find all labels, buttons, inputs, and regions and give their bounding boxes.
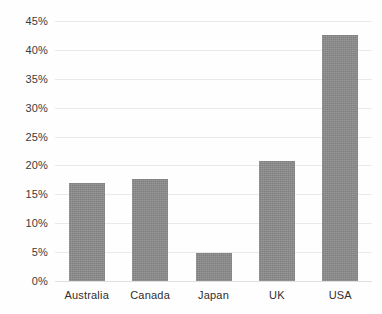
plot-area [55,21,372,281]
y-axis-tick-label: 20% [0,159,48,171]
bar [196,253,232,281]
x-axis-tick-label: UK [269,289,285,301]
y-axis-tick-label: 10% [0,217,48,229]
x-axis-tick-label: Canada [130,289,170,301]
bar [259,161,295,281]
y-axis-tick-label: 40% [0,44,48,56]
bars-layer [55,21,372,281]
x-axis-tick-label: Australia [64,289,109,301]
y-axis-tick-label: 25% [0,131,48,143]
bar-chart: 0% 5% 10% 15% 20% 25% 30% 35% 40% 45% Au… [0,0,382,314]
bar [69,183,105,281]
x-axis-tick-label: Japan [198,289,229,301]
y-axis-tick-label: 45% [0,15,48,27]
y-axis-tick-label: 5% [0,246,48,258]
bar [132,179,168,281]
gridline [55,281,372,282]
y-axis-tick-label: 35% [0,73,48,85]
bar [322,35,358,281]
y-axis-tick-label: 0% [0,275,48,287]
x-axis-tick-label: USA [329,289,352,301]
y-axis-tick-label: 30% [0,102,48,114]
y-axis-tick-label: 15% [0,188,48,200]
